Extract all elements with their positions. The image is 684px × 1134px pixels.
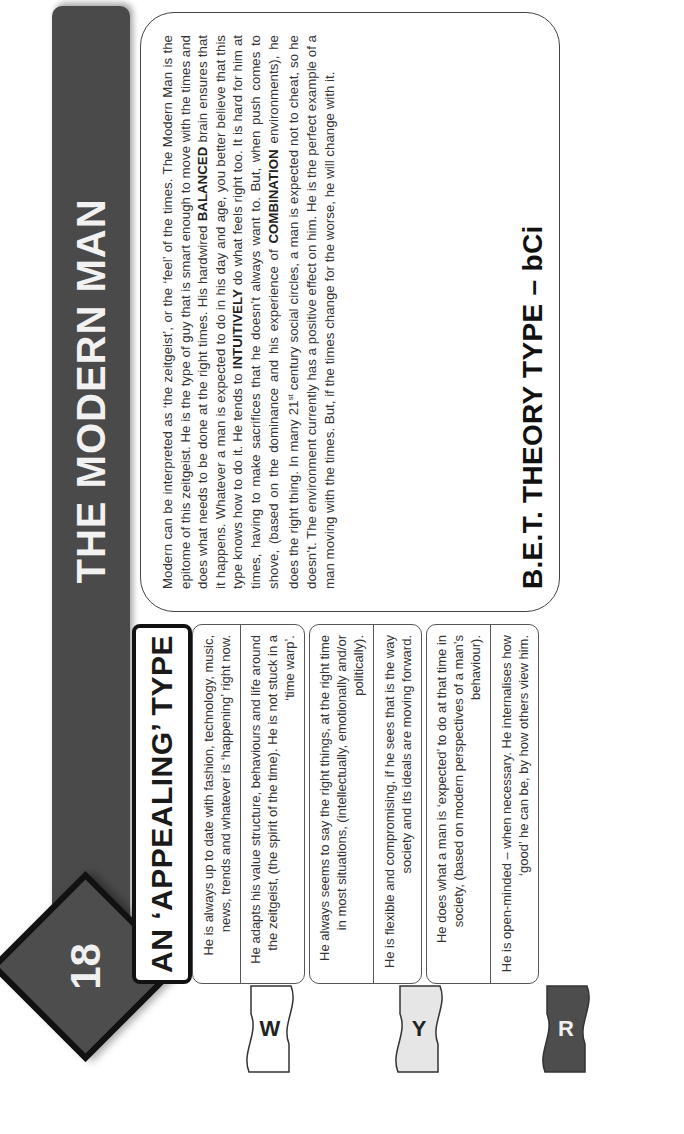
tab-y-label: Y (412, 1016, 427, 1042)
trait-item: He is open-minded – when necessary. He i… (490, 625, 538, 983)
keyword-intuitively: INTUITIVELY (230, 289, 245, 369)
page: THE MODERN MAN 18 AN ‘APPEALING’ TYPE He… (0, 0, 684, 1134)
trait-text: He is always up to date with fashion, te… (200, 635, 234, 973)
bet-theory-type: B.E.T. THEORY TYPE – bCi (517, 35, 549, 589)
trait-text: He is flexible and compromising, if he s… (381, 635, 415, 973)
tab-r-banner: R (541, 984, 591, 1074)
keyword-combination: COMBINATION (266, 149, 281, 243)
trait-group-w: He is always up to date with fashion, te… (192, 624, 305, 984)
tab-y-banner: Y (394, 984, 444, 1074)
tab-w-label: W (260, 1016, 281, 1042)
traits-list: He is always up to date with fashion, te… (192, 624, 543, 984)
trait-group-y: He always seems to say the right things,… (309, 624, 422, 984)
header-band: THE MODERN MAN (52, 6, 130, 1006)
section-title: AN ‘APPEALING’ TYPE (132, 624, 192, 984)
trait-item: He adapts his value structure, behaviour… (240, 625, 304, 983)
description-text: Modern can be interpreted as ‘the zeitge… (159, 35, 338, 589)
trait-text: He is open-minded – when necessary. He i… (498, 635, 532, 973)
trait-item: He is always up to date with fashion, te… (193, 625, 240, 983)
keyword-balanced: BALANCED (195, 147, 210, 222)
tab-r-label: R (558, 1016, 574, 1042)
page-title: THE MODERN MAN (52, 6, 130, 1006)
trait-text: He adapts his value structure, behaviour… (247, 635, 298, 973)
trait-text: He always seems to say the right things,… (316, 635, 367, 973)
tab-w-banner: W (245, 984, 295, 1074)
trait-group-r: He does what a man is ‘expected’ to do a… (426, 624, 539, 984)
description-box: Modern can be interpreted as ‘the zeitge… (140, 12, 560, 612)
trait-item: He does what a man is ‘expected’ to do a… (427, 625, 490, 983)
trait-text: He does what a man is ‘expected’ to do a… (433, 635, 484, 973)
trait-item: He always seems to say the right things,… (310, 625, 373, 983)
trait-item: He is flexible and compromising, if he s… (373, 625, 421, 983)
